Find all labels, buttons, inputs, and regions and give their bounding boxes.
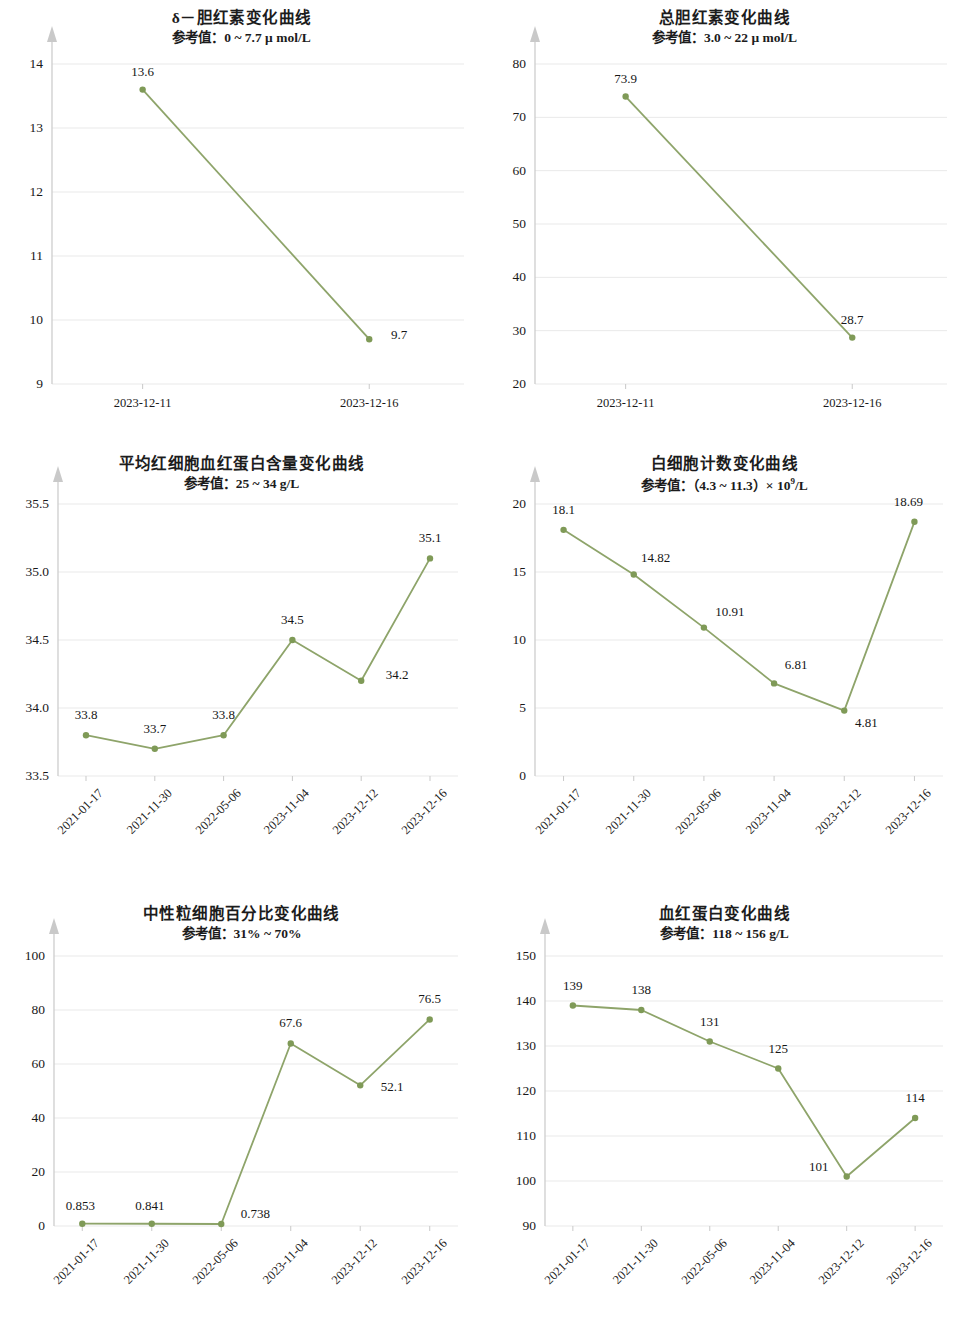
data-point-marker[interactable] (152, 746, 158, 752)
data-point-marker[interactable] (841, 707, 847, 713)
data-line (82, 1019, 429, 1224)
data-point-marker[interactable] (638, 1007, 644, 1013)
data-point-label: 0.738 (241, 1206, 270, 1222)
chart-reference-range: 参考值：31% ~ 70% (0, 926, 483, 943)
data-point-marker[interactable] (911, 519, 917, 525)
y-axis-tick-label: 13 (0, 120, 43, 136)
x-axis-tick-label: 2021-11-30 (610, 1236, 662, 1288)
data-point-marker[interactable] (139, 86, 145, 92)
y-axis-tick-label: 15 (483, 564, 526, 580)
y-axis-tick-label: 35.5 (0, 496, 49, 512)
chart-title-block: δ－胆红素变化曲线参考值：0 ~ 7.7 μ mol/L (0, 8, 483, 47)
y-axis-tick-label: 34.0 (0, 700, 49, 716)
chart-title-block: 血红蛋白变化曲线参考值：118 ~ 156 g/L (483, 904, 966, 943)
chart-title: 平均红细胞血红蛋白含量变化曲线 (0, 454, 483, 473)
data-point-marker[interactable] (218, 1221, 224, 1227)
x-axis-tick-label: 2022-05-06 (190, 1236, 242, 1288)
data-point-label: 67.6 (279, 1015, 302, 1031)
chart-title: 中性粒细胞百分比变化曲线 (0, 904, 483, 923)
y-axis-tick-label: 20 (483, 376, 526, 392)
chart-title: δ－胆红素变化曲线 (0, 8, 483, 27)
y-axis-tick-label: 20 (483, 496, 526, 512)
data-point-label: 33.8 (212, 707, 235, 723)
chart-cell-hemoglobin: 血红蛋白变化曲线参考值：118 ~ 156 g/L901001101201301… (483, 890, 966, 1321)
x-axis-tick-label: 2021-11-30 (121, 1236, 173, 1288)
data-point-label: 34.2 (386, 667, 409, 683)
data-point-marker[interactable] (622, 93, 628, 99)
data-point-marker[interactable] (849, 334, 855, 340)
y-axis-tick-label: 35.0 (0, 564, 49, 580)
y-axis-tick-label: 80 (483, 56, 526, 72)
x-axis-tick-label: 2023-12-16 (884, 1236, 936, 1288)
y-axis-tick-label: 9 (0, 376, 43, 392)
x-axis-tick-label: 2023-11-04 (743, 786, 795, 838)
x-axis-tick-label: 2022-05-06 (673, 786, 725, 838)
data-point-marker[interactable] (220, 732, 226, 738)
x-axis-tick-label: 2021-11-30 (124, 786, 176, 838)
x-axis-tick-label: 2023-12-12 (330, 786, 382, 838)
chart-title: 白细胞计数变化曲线 (483, 454, 966, 473)
x-axis-tick-label: 2023-12-11 (114, 396, 172, 411)
data-point-marker[interactable] (427, 555, 433, 561)
data-line (143, 90, 370, 340)
data-point-marker[interactable] (843, 1173, 849, 1179)
chart-reference-range: 参考值：0 ~ 7.7 μ mol/L (0, 30, 483, 47)
data-point-marker[interactable] (149, 1221, 155, 1227)
data-point-marker[interactable] (366, 336, 372, 342)
data-point-marker[interactable] (912, 1115, 918, 1121)
data-point-marker[interactable] (707, 1038, 713, 1044)
y-axis-tick-label: 0 (0, 1218, 45, 1234)
data-point-marker[interactable] (570, 1002, 576, 1008)
data-point-marker[interactable] (79, 1220, 85, 1226)
data-point-marker[interactable] (560, 527, 566, 533)
data-line (626, 97, 853, 338)
data-point-label: 34.5 (281, 612, 304, 628)
x-axis-tick-label: 2023-12-16 (883, 786, 935, 838)
data-line (86, 558, 430, 748)
plot-area: 051015202021-01-172021-11-302022-05-0620… (535, 504, 943, 776)
data-point-label: 33.8 (75, 707, 98, 723)
plot-svg (535, 64, 947, 384)
y-axis-tick-label: 70 (483, 109, 526, 125)
data-point-label: 101 (809, 1159, 829, 1175)
plot-area: 901001101201301401502021-01-172021-11-30… (545, 956, 943, 1226)
x-axis-tick-label: 2023-12-16 (399, 786, 451, 838)
x-axis-tick-label: 2023-12-12 (329, 1236, 381, 1288)
chart-cell-delta-bilirubin: δ－胆红素变化曲线参考值：0 ~ 7.7 μ mol/L910111213142… (0, 0, 483, 440)
x-axis-tick-label: 2023-11-04 (260, 1236, 312, 1288)
data-point-marker[interactable] (289, 637, 295, 643)
chart-cell-total-bilirubin: 总胆红素变化曲线参考值：3.0 ~ 22 μ mol/L203040506070… (483, 0, 966, 440)
data-point-marker[interactable] (631, 571, 637, 577)
data-point-label: 131 (700, 1014, 720, 1030)
data-point-marker[interactable] (358, 678, 364, 684)
plot-area: 0204060801002021-01-172021-11-302022-05-… (54, 956, 458, 1226)
data-point-label: 114 (906, 1090, 925, 1106)
plot-svg (545, 956, 943, 1226)
data-point-marker[interactable] (357, 1082, 363, 1088)
chart-title-block: 白细胞计数变化曲线参考值：（4.3 ~ 11.3）× 109/L (483, 454, 966, 495)
y-axis-tick-label: 60 (0, 1056, 45, 1072)
data-point-label: 125 (768, 1041, 788, 1057)
y-axis-tick-label: 60 (483, 163, 526, 179)
chart-cell-wbc: 白细胞计数变化曲线参考值：（4.3 ~ 11.3）× 109/L05101520… (483, 440, 966, 890)
y-axis-tick-label: 14 (0, 56, 43, 72)
y-axis-tick-label: 30 (483, 323, 526, 339)
data-point-marker[interactable] (771, 680, 777, 686)
chart-reference-range: 参考值：（4.3 ~ 11.3）× 109/L (483, 476, 966, 494)
data-point-marker[interactable] (427, 1016, 433, 1022)
data-point-marker[interactable] (288, 1040, 294, 1046)
data-point-marker[interactable] (775, 1065, 781, 1071)
y-axis-tick-label: 110 (483, 1128, 536, 1144)
data-point-label: 0.841 (135, 1198, 164, 1214)
data-point-label: 35.1 (419, 530, 442, 546)
y-axis-tick-label: 10 (483, 632, 526, 648)
plot-area: 203040506070802023-12-112023-12-1673.928… (535, 64, 947, 384)
chart-title-block: 中性粒细胞百分比变化曲线参考值：31% ~ 70% (0, 904, 483, 943)
data-point-marker[interactable] (83, 732, 89, 738)
x-axis-tick-label: 2023-12-11 (597, 396, 655, 411)
x-axis-tick-label: 2021-01-17 (542, 1236, 594, 1288)
plot-svg (535, 504, 943, 776)
data-point-marker[interactable] (701, 624, 707, 630)
y-axis-tick-label: 40 (0, 1110, 45, 1126)
x-axis-tick-label: 2023-12-12 (813, 786, 865, 838)
